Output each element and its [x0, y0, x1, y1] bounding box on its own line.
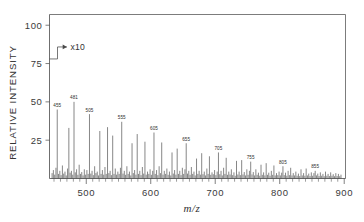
peak-label: 555 [118, 115, 126, 120]
x10-annotation-line [50, 47, 67, 59]
spectrum-peaks [52, 102, 341, 179]
y-tick-label: 75 [31, 58, 43, 69]
y-axis-title: RELATIVE INTENSITY [7, 45, 18, 160]
peak-label: 481 [70, 95, 78, 100]
x10-annotation-label: x10 [70, 42, 85, 52]
peak-label: 855 [311, 164, 319, 169]
peak-label: 655 [182, 137, 190, 142]
x-tick-label: 600 [142, 187, 160, 198]
x-axis-title: m/z [184, 202, 201, 214]
x-tick-label: 900 [335, 187, 353, 198]
y-tick-label: 100 [25, 20, 43, 31]
y-tick-label: 50 [31, 96, 43, 107]
x10-arrowhead-icon [63, 45, 67, 50]
peak-label: 755 [247, 155, 255, 160]
x-tick-label: 500 [77, 187, 95, 198]
peak-label: 605 [150, 126, 158, 131]
mass-spectrum-figure: 2550751005006007008009004554815055556056… [0, 0, 364, 222]
peak-label: 805 [279, 160, 287, 165]
y-tick-label: 25 [31, 135, 43, 146]
peak-label: 505 [85, 108, 93, 113]
peak-label: 455 [53, 103, 61, 108]
plot-frame [50, 15, 346, 179]
peak-label: 705 [214, 146, 222, 151]
chart-canvas: 2550751005006007008009004554815055556056… [0, 0, 364, 222]
x-tick-label: 700 [206, 187, 224, 198]
x-tick-label: 800 [271, 187, 289, 198]
